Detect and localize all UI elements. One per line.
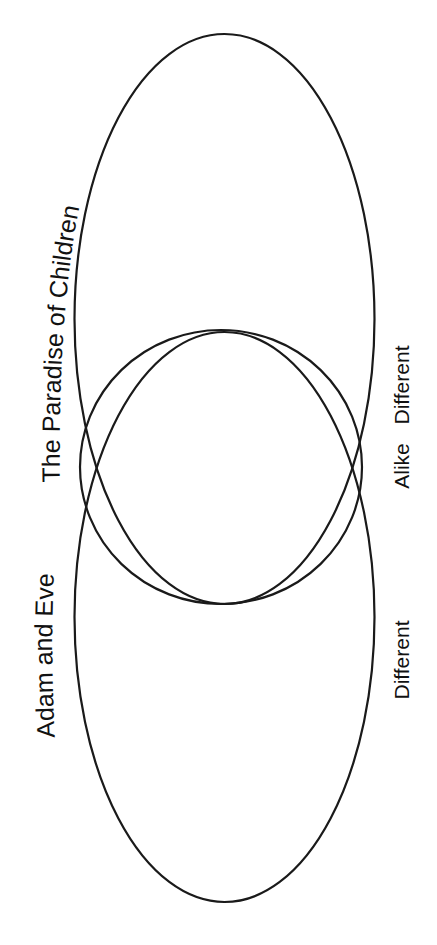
- label-top-set: The Paradise of Children: [37, 203, 85, 483]
- label-top-set-text: The Paradise of Children: [37, 203, 85, 483]
- label-bottom-set-text: Adam and Eve: [29, 573, 60, 739]
- worksheet-page: The Paradise of Children Adam and Eve Di…: [0, 0, 437, 945]
- label-bottom-different: Different: [390, 620, 413, 699]
- label-top-different: Different: [390, 345, 413, 424]
- ellipse-top-set: [75, 34, 375, 604]
- ellipse-bottom-set: [75, 332, 375, 902]
- venn-diagram-canvas: The Paradise of Children Adam and Eve Di…: [0, 0, 437, 945]
- ellipse-intersection: [80, 330, 362, 604]
- label-bottom-set: Adam and Eve: [29, 573, 60, 739]
- label-overlap-alike: Alike: [390, 443, 413, 489]
